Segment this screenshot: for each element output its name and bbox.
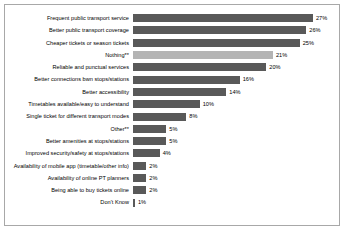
bar-value-label: 21%: [273, 52, 287, 58]
bar-track: 26%: [133, 24, 339, 36]
bar: [133, 162, 146, 170]
bar-track: 2%: [133, 160, 339, 172]
bar-value-label: 2%: [146, 187, 157, 193]
bar-row: Improved security/safety at stops/statio…: [5, 147, 339, 159]
bar-row: Single ticket for different transport mo…: [5, 110, 339, 122]
bar-value-label: 4%: [160, 150, 171, 156]
bar-row: Frequent public transport service27%: [5, 12, 339, 24]
bar-track: 5%: [133, 123, 339, 135]
bar-value-label: 16%: [240, 76, 254, 82]
bar-value-label: 20%: [266, 64, 280, 70]
bar-row: Better connections bwn stops/stations16%: [5, 73, 339, 85]
bar-category-label: Better connections bwn stops/stations: [5, 76, 133, 82]
bar-category-label: Timetables available/easy to understand: [5, 101, 133, 107]
bar-category-label: Better amenities at stops/stations: [5, 138, 133, 144]
bar-category-label: Better accessibility: [5, 89, 133, 95]
bar-value-label: 2%: [146, 175, 157, 181]
bar-value-label: 5%: [166, 138, 177, 144]
bar: [133, 149, 160, 157]
bar: [133, 100, 200, 108]
bar-value-label: 26%: [306, 27, 320, 33]
bar-category-label: Frequent public transport service: [5, 15, 133, 21]
bar-value-label: 1%: [135, 199, 146, 205]
bar-track: 27%: [133, 12, 339, 24]
bar-track: 8%: [133, 110, 339, 122]
bar: [133, 174, 146, 182]
bar-value-label: 10%: [200, 101, 214, 107]
bar-category-label: Being able to buy tickets online: [5, 187, 133, 193]
bar-row: Availability of online PT planners2%: [5, 172, 339, 184]
bar-track: 5%: [133, 135, 339, 147]
bar-track: 10%: [133, 98, 339, 110]
bar-category-label: Other**: [5, 126, 133, 132]
bar: [133, 76, 240, 84]
bar-row: Timetables available/easy to understand1…: [5, 98, 339, 110]
bar-category-label: Availability of online PT planners: [5, 175, 133, 181]
bar-value-label: 5%: [166, 126, 177, 132]
bar-row: Better public transport coverage26%: [5, 24, 339, 36]
bar-track: 16%: [133, 73, 339, 85]
bar: [133, 125, 166, 133]
bar-row: Being able to buy tickets online2%: [5, 184, 339, 196]
bar-track: 2%: [133, 184, 339, 196]
bar: [133, 26, 306, 34]
bar-row: Availability of mobile app (timetable/ot…: [5, 160, 339, 172]
bar: [133, 137, 166, 145]
bar-category-label: Don't Know: [5, 199, 133, 205]
bar-track: 1%: [133, 196, 339, 208]
bar-row: Better accessibility14%: [5, 86, 339, 98]
bar: [133, 186, 146, 194]
bar: [133, 88, 226, 96]
bar-category-label: Reliable and punctual services: [5, 64, 133, 70]
bar-category-label: Single ticket for different transport mo…: [5, 113, 133, 119]
bar-value-label: 8%: [186, 113, 197, 119]
bar: [133, 113, 186, 121]
bar-value-label: 27%: [313, 15, 327, 21]
bar-row: Other**5%: [5, 123, 339, 135]
bar-category-label: Cheaper tickets or season tickets: [5, 40, 133, 46]
bar-track: 4%: [133, 147, 339, 159]
bar-row: Reliable and punctual services20%: [5, 61, 339, 73]
bar: [133, 39, 300, 47]
bar-category-label: Better public transport coverage: [5, 27, 133, 33]
bar-chart-plot-area: Frequent public transport service27%Bett…: [5, 12, 339, 220]
bar-track: 20%: [133, 61, 339, 73]
bar-row: Better amenities at stops/stations5%: [5, 135, 339, 147]
bar-track: 14%: [133, 86, 339, 98]
bar-value-label: 25%: [300, 40, 314, 46]
bar-track: 2%: [133, 172, 339, 184]
bar-value-label: 14%: [226, 89, 240, 95]
bar: [133, 63, 266, 71]
bar-category-label: Improved security/safety at stops/statio…: [5, 150, 133, 156]
bar-category-label: Nothing**: [5, 52, 133, 58]
bar: [133, 14, 313, 22]
bar-row: Don't Know1%: [5, 196, 339, 208]
bar-row: Nothing**21%: [5, 49, 339, 61]
bar-category-label: Availability of mobile app (timetable/ot…: [5, 163, 133, 169]
bar-value-label: 2%: [146, 163, 157, 169]
bar: [133, 51, 273, 59]
bar-track: 25%: [133, 37, 339, 49]
bar-row: Cheaper tickets or season tickets25%: [5, 37, 339, 49]
chart-frame: Frequent public transport service27%Bett…: [4, 4, 340, 226]
bar-track: 21%: [133, 49, 339, 61]
